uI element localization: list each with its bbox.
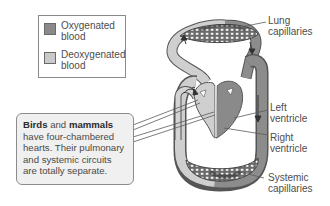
label-left-ventricle: Left ventricle <box>270 102 307 124</box>
label-line: capillaries <box>268 26 312 37</box>
oxygenated-swatch <box>44 23 56 35</box>
legend-label: Oxygenated blood <box>61 20 121 42</box>
legend-item-oxygenated: Oxygenated blood <box>44 20 121 42</box>
legend-item-deoxygenated: Deoxygenated blood <box>44 49 121 71</box>
label-lung-capillaries: Lung capillaries <box>268 15 312 37</box>
legend: Oxygenated blood Deoxygenated blood <box>38 15 126 78</box>
label-line: ventricle <box>270 143 307 154</box>
callout-text: and <box>48 119 69 130</box>
callout-bold-birds: Birds <box>23 119 48 130</box>
legend-line: Oxygenated <box>61 20 121 31</box>
deoxygenated-swatch <box>44 52 56 64</box>
label-line: Left <box>270 102 307 113</box>
callout-text: have four-chambered hearts. Their pulmon… <box>23 131 124 177</box>
legend-line: Deoxygenated <box>61 49 121 60</box>
label-systemic-capillaries: Systemic capillaries <box>268 172 312 194</box>
legend-line: blood <box>61 31 121 42</box>
callout-bold-mammals: mammals <box>69 119 113 130</box>
label-line: ventricle <box>270 113 307 124</box>
label-line: Lung <box>268 15 312 26</box>
label-line: capillaries <box>268 183 312 194</box>
pulmonary-circuit <box>172 24 258 82</box>
label-line: Systemic <box>268 172 312 183</box>
info-callout: Birds and mammals have four-chambered he… <box>16 113 134 185</box>
legend-label: Deoxygenated blood <box>61 49 121 71</box>
label-right-ventricle: Right ventricle <box>270 132 307 154</box>
legend-line: blood <box>61 60 121 71</box>
label-line: Right <box>270 132 307 143</box>
